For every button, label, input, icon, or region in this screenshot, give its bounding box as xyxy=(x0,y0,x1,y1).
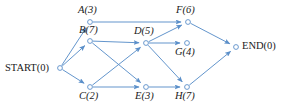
node-label-h: H(7) xyxy=(175,91,195,102)
node-circle-b[interactable] xyxy=(88,39,93,44)
node-circle-f[interactable] xyxy=(186,20,191,25)
edge-b-d xyxy=(93,41,139,43)
node-circle-e[interactable] xyxy=(144,85,149,90)
edge-b-e xyxy=(92,43,140,83)
edge-c-d xyxy=(92,47,140,85)
diagram-canvas: START(0)A(3)B(7)C(2)D(5)E(3)F(6)G(4)H(7)… xyxy=(0,0,282,107)
node-circle-g[interactable] xyxy=(185,41,190,46)
node-label-start: START(0) xyxy=(5,63,49,74)
node-circle-d[interactable] xyxy=(144,41,149,46)
node-label-b: B(7) xyxy=(79,25,98,36)
edge-f-end xyxy=(191,23,230,43)
node-label-f: F(6) xyxy=(176,5,195,16)
node-circle-h[interactable] xyxy=(185,85,190,90)
node-circle-end[interactable] xyxy=(234,45,239,50)
node-label-c: C(2) xyxy=(79,91,98,102)
edge-start-b xyxy=(62,46,85,66)
edge-h-end xyxy=(189,51,230,85)
node-label-d: D(5) xyxy=(134,26,154,37)
node-label-a: A(3) xyxy=(78,5,97,16)
node-circle-c[interactable] xyxy=(88,85,93,90)
node-label-g: G(4) xyxy=(175,47,195,58)
edge-start-c xyxy=(63,70,85,84)
node-label-end: END(0) xyxy=(242,41,276,52)
node-circle-start[interactable] xyxy=(58,66,63,71)
node-label-e: E(3) xyxy=(135,91,154,102)
